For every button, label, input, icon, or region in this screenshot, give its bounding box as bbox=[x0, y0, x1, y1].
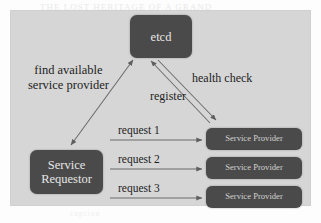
node-etcd-label: etcd bbox=[151, 30, 172, 44]
node-service-provider-1[interactable]: Service Provider bbox=[206, 128, 302, 150]
node-service-provider-3[interactable]: Service Provider bbox=[206, 186, 302, 208]
node-etcd[interactable]: etcd bbox=[130, 15, 192, 58]
edge-label-register: register bbox=[150, 90, 186, 104]
node-service-provider-1-label: Service Provider bbox=[225, 134, 283, 144]
edge-label-request-1: request 1 bbox=[118, 124, 160, 137]
diagram-panel: etcd Service Requestor Service Provider … bbox=[10, 10, 311, 206]
node-service-requestor-line1: Service bbox=[48, 158, 85, 172]
edge-label-find-available-line2: service provider bbox=[28, 78, 109, 92]
edge-label-find-available-line1: find available bbox=[34, 63, 102, 77]
node-service-requestor-line2: Requestor bbox=[41, 172, 92, 186]
node-service-provider-3-label: Service Provider bbox=[225, 192, 283, 202]
edge-label-find-available: find available service provider bbox=[28, 63, 109, 92]
node-service-provider-2-label: Service Provider bbox=[225, 163, 283, 173]
edge-label-request-3: request 3 bbox=[118, 182, 160, 195]
figure-caption-clipped: caption bbox=[70, 209, 101, 218]
edge-label-request-2: request 2 bbox=[118, 153, 160, 166]
node-service-requestor-label: Service Requestor bbox=[41, 158, 92, 186]
scanned-page: THE LOST HERITAGE OF A GRAND THE MOST RE… bbox=[0, 0, 321, 223]
edge-label-health-check: health check bbox=[192, 72, 252, 86]
node-service-requestor[interactable]: Service Requestor bbox=[30, 150, 103, 194]
node-service-provider-2[interactable]: Service Provider bbox=[206, 157, 302, 179]
